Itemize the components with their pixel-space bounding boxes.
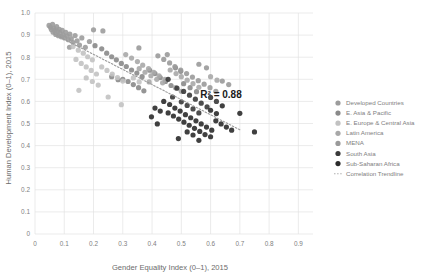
data-point <box>148 73 153 78</box>
legend-marker <box>335 141 340 146</box>
data-point <box>229 128 234 133</box>
data-point <box>131 82 136 87</box>
data-point <box>213 118 218 123</box>
data-point <box>204 65 209 70</box>
data-point <box>179 74 184 79</box>
x-axis-title: Gender Equality Index (0–1), 2015 <box>112 263 228 272</box>
legend-label[interactable]: Sub-Saharan Africa <box>346 160 400 167</box>
data-point <box>99 46 104 51</box>
data-point <box>204 124 209 129</box>
data-point <box>224 124 229 129</box>
data-point <box>104 51 109 56</box>
data-point <box>185 103 190 108</box>
data-point <box>90 79 95 84</box>
data-point <box>199 121 204 126</box>
chart-canvas: 00.10.20.30.40.50.60.70.80.9 00.10.20.30… <box>0 0 436 277</box>
y-tick-label: 1.0 <box>21 9 30 16</box>
legend-label[interactable]: E. Asia & Pacific <box>346 109 391 116</box>
data-point <box>178 109 183 114</box>
data-point <box>135 59 140 64</box>
data-point <box>185 129 190 134</box>
data-point <box>100 28 105 33</box>
data-point <box>94 71 99 76</box>
x-tick-label: 0.4 <box>148 240 157 247</box>
data-point <box>91 27 96 32</box>
data-point <box>125 79 130 84</box>
data-point <box>92 43 97 48</box>
data-point <box>67 31 72 36</box>
data-point <box>96 82 101 87</box>
y-tick-label: 0.5 <box>21 120 30 127</box>
data-point <box>184 71 189 76</box>
x-tick-label: 0.1 <box>60 240 69 247</box>
data-point <box>149 114 154 119</box>
legend-label[interactable]: E. Europe & Central Asia <box>346 119 415 126</box>
data-point <box>106 94 111 99</box>
data-point <box>83 45 88 50</box>
y-tick-label: 0.1 <box>21 208 30 215</box>
data-point <box>173 71 178 76</box>
data-point <box>90 57 95 62</box>
trendline-path <box>54 34 241 131</box>
data-point <box>183 112 188 117</box>
data-point <box>123 52 128 57</box>
x-tick-label: 0.2 <box>89 240 98 247</box>
legend-marker <box>335 131 340 136</box>
data-point <box>226 82 231 87</box>
data-point <box>76 88 81 93</box>
data-point <box>137 66 142 71</box>
y-axis-title: Human Development Index (0–1), 2015 <box>4 52 13 185</box>
data-point <box>214 111 219 116</box>
data-point <box>136 45 141 50</box>
data-point <box>84 64 89 69</box>
x-tick-label: 0.9 <box>294 240 303 247</box>
data-point <box>167 60 172 65</box>
data-point <box>134 71 139 76</box>
legend-trendline-label[interactable]: Correlation Trendline <box>346 170 404 177</box>
data-point <box>181 89 186 94</box>
data-point <box>141 88 146 93</box>
data-point <box>152 105 157 110</box>
data-point <box>202 132 207 137</box>
data-point <box>194 89 199 94</box>
data-point <box>119 61 124 66</box>
y-tick-label: 0.6 <box>21 98 30 105</box>
data-point <box>172 105 177 110</box>
legend-marker <box>335 111 340 116</box>
legend-label[interactable]: MENA <box>346 139 365 146</box>
y-tick-label: 0 <box>26 230 30 237</box>
data-point <box>220 78 225 83</box>
data-point <box>84 75 89 80</box>
data-point <box>168 67 173 72</box>
data-point <box>136 85 141 90</box>
x-tick-label: 0 <box>33 240 37 247</box>
data-point <box>196 110 201 115</box>
data-point <box>89 68 94 73</box>
data-point <box>87 39 92 44</box>
data-point <box>79 35 84 40</box>
data-point <box>209 128 214 133</box>
data-point <box>214 78 219 83</box>
data-point <box>120 78 125 83</box>
legend-label[interactable]: Developed Countries <box>346 99 404 106</box>
x-axis-tick-labels: 00.10.20.30.40.50.60.70.80.9 <box>33 240 303 247</box>
data-point <box>155 53 160 58</box>
data-point <box>237 111 242 116</box>
data-point <box>99 64 104 69</box>
data-point <box>119 102 124 107</box>
legend-label[interactable]: South Asia <box>346 150 376 157</box>
y-axis-tick-labels: 00.10.20.30.40.50.60.70.80.91.0 <box>21 9 30 237</box>
data-point <box>79 61 84 66</box>
data-point <box>181 120 186 125</box>
data-point <box>110 71 115 76</box>
data-point <box>137 79 142 84</box>
y-tick-label: 0.3 <box>21 164 30 171</box>
legend: Developed CountriesE. Asia & PacificE. E… <box>334 99 415 177</box>
data-point <box>192 126 197 131</box>
data-point <box>208 108 213 113</box>
data-point <box>114 57 119 62</box>
x-tick-label: 0.3 <box>118 240 127 247</box>
data-point <box>109 54 114 59</box>
legend-label[interactable]: Latin America <box>346 129 384 136</box>
data-point <box>190 106 195 111</box>
